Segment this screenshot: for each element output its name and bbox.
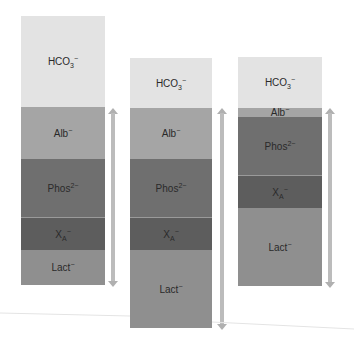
- divider-line: [0, 0, 354, 342]
